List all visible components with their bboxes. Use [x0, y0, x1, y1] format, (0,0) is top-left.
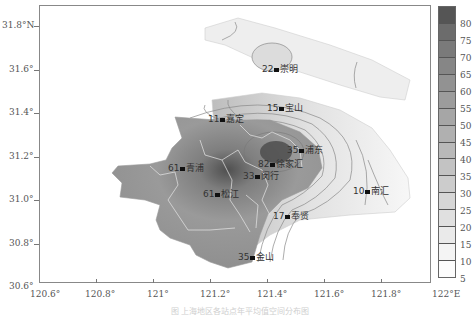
- x-tick-label: 121.4°: [257, 289, 287, 299]
- x-tick: [381, 279, 382, 283]
- station-chongming: 22崇明: [262, 62, 298, 75]
- colorbar-label: 80: [460, 19, 471, 29]
- station-jiading: 11嘉定: [208, 112, 244, 125]
- x-tick-label: 121.6°: [314, 289, 344, 299]
- y-tick: [34, 113, 39, 114]
- x-tick-label: 121°: [147, 289, 169, 299]
- station-name: 青浦: [186, 163, 204, 173]
- station-value: 35: [238, 252, 249, 262]
- x-tick: [267, 279, 268, 283]
- station-name: 徐家汇: [276, 159, 303, 169]
- colorbar-segment: [439, 227, 455, 244]
- station-marker-icon: [270, 163, 275, 167]
- colorbar-label: 65: [460, 70, 471, 80]
- station-value: 33: [243, 171, 254, 181]
- station-nanhui: 10南汇: [353, 184, 389, 197]
- station-value: 11: [208, 114, 219, 124]
- station-marker-icon: [365, 190, 370, 194]
- station-marker-icon: [299, 149, 304, 153]
- station-minhang: 33闵行: [243, 169, 279, 182]
- station-name: 嘉定: [226, 114, 244, 124]
- station-marker-icon: [255, 175, 260, 179]
- station-qingpu: 61青浦: [168, 161, 204, 174]
- station-name: 崇明: [280, 64, 298, 74]
- station-name: 浦东: [305, 145, 323, 155]
- station-marker-icon: [220, 118, 225, 122]
- colorbar-label: 5: [460, 274, 466, 284]
- station-marker-icon: [250, 256, 255, 260]
- colorbar-segment: [439, 210, 455, 227]
- y-tick: [34, 200, 39, 201]
- x-tick: [153, 279, 154, 283]
- y-tick: [34, 157, 39, 158]
- x-tick: [96, 279, 97, 283]
- y-tick-label: 31.6°: [9, 64, 34, 74]
- colorbar-segment: [439, 261, 455, 277]
- y-tick-label: 31.0°: [9, 194, 34, 204]
- colorbar-segment: [439, 159, 455, 176]
- x-tick: [324, 279, 325, 283]
- colorbar-label: 15: [460, 240, 471, 250]
- station-name: 奉贤: [291, 211, 309, 221]
- colorbar-label: 60: [460, 87, 471, 97]
- station-fengxian: 17奉贤: [273, 209, 309, 222]
- colorbar-segment: [439, 193, 455, 210]
- station-name: 闵行: [261, 171, 279, 181]
- station-marker-icon: [274, 68, 279, 72]
- station-value: 22: [262, 64, 273, 74]
- colorbar-label: 75: [460, 36, 471, 46]
- y-tick-label: 31.4°: [9, 107, 34, 117]
- x-tick-label: 120.6°: [30, 289, 60, 299]
- station-value: 15: [267, 103, 278, 113]
- colorbar-label: 70: [460, 53, 471, 63]
- colorbar-label: 25: [460, 206, 471, 216]
- station-marker-icon: [279, 107, 284, 111]
- y-tick-label: 31.8°N: [2, 20, 34, 30]
- y-tick-label: 31.2°: [9, 151, 34, 161]
- colorbar-segment: [439, 126, 455, 143]
- colorbar-label: 45: [460, 138, 471, 148]
- colorbar-segment: [439, 244, 455, 261]
- x-tick-label: 122°E: [432, 289, 460, 299]
- colorbar-label: 30: [460, 189, 471, 199]
- colorbar-segment: [439, 24, 455, 41]
- station-name: 宝山: [285, 103, 303, 113]
- colorbar-label: 50: [460, 121, 471, 131]
- y-tick: [34, 244, 39, 245]
- station-value: 17: [273, 211, 284, 221]
- station-name: 金山: [256, 252, 274, 262]
- x-tick-label: 121.8°: [371, 289, 401, 299]
- colorbar-segment: [439, 41, 455, 58]
- colorbar-segment: [439, 176, 455, 193]
- plot-frame: [39, 5, 431, 283]
- figure-caption: 图 上海地区各站点年平均值空间分布图: [80, 305, 400, 316]
- x-tick: [210, 279, 211, 283]
- y-tick: [34, 26, 39, 27]
- station-value: 82: [258, 159, 269, 169]
- contour-map-figure: 31.8°N 31.6° 31.4° 31.2° 31.0° 30.8° 30.…: [0, 0, 476, 319]
- colorbar: [438, 6, 456, 278]
- colorbar-label: 20: [460, 223, 471, 233]
- station-value: 61: [168, 163, 179, 173]
- colorbar-segment: [439, 58, 455, 75]
- colorbar-segment: [439, 75, 455, 92]
- station-jinshan: 35金山: [238, 250, 274, 263]
- colorbar-segment: [439, 92, 455, 109]
- station-songjiang: 61松江: [203, 187, 239, 200]
- station-value: 61: [203, 189, 214, 199]
- colorbar-label: 35: [460, 172, 471, 182]
- station-name: 松江: [221, 189, 239, 199]
- station-value: 35: [287, 145, 298, 155]
- colorbar-label: 55: [460, 104, 471, 114]
- station-pudong: 35浦东: [287, 143, 323, 156]
- colorbar-label: 10: [460, 257, 471, 267]
- x-tick-label: 120.8°: [85, 289, 115, 299]
- y-tick-label: 30.8°: [9, 238, 34, 248]
- station-marker-icon: [180, 167, 185, 171]
- station-marker-icon: [285, 215, 290, 219]
- x-tick-label: 121.2°: [200, 289, 230, 299]
- colorbar-label: 40: [460, 155, 471, 165]
- station-marker-icon: [215, 193, 220, 197]
- station-value: 10: [353, 186, 364, 196]
- colorbar-segment: [439, 109, 455, 126]
